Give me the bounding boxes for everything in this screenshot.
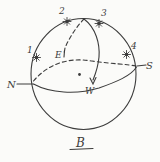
- point-label-4: 4: [130, 41, 137, 51]
- star-marker-3: [95, 20, 103, 28]
- point-label-1: 1: [27, 45, 33, 55]
- north-label: N: [6, 79, 17, 90]
- equator-back-dashed: [34, 60, 137, 81]
- star-marker-1: [33, 54, 41, 62]
- meridian-to-west: [84, 19, 99, 80]
- east-point-tick: [64, 51, 65, 58]
- figure-canvas: 1 2 3 4 N S E W B: [0, 0, 160, 162]
- star-marker-2: [63, 18, 71, 26]
- west-label: W: [85, 86, 95, 96]
- point-label-2: 2: [58, 6, 65, 16]
- point-label-3: 3: [101, 8, 107, 18]
- south-axis-line: [137, 65, 146, 66]
- sphere-outline: [31, 19, 136, 130]
- center-dot: [78, 73, 81, 76]
- figure-caption: B: [75, 136, 85, 150]
- sphere-diagram: 1 2 3 4 N S E W B: [0, 0, 160, 162]
- west-arrowhead-icon: [90, 78, 96, 85]
- east-label: E: [54, 50, 62, 60]
- caption-underline: [70, 149, 93, 150]
- star-marker-4: [123, 51, 131, 59]
- south-label: S: [146, 60, 153, 71]
